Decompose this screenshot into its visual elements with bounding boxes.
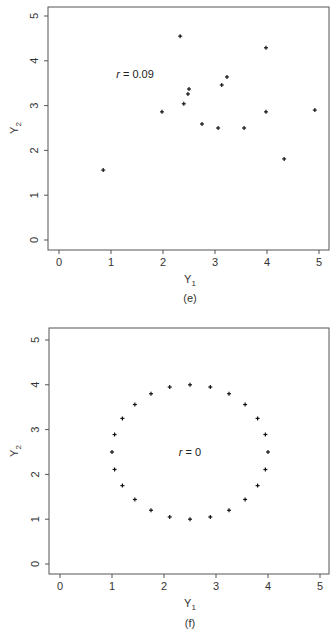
y-tick-label: 2 [28,147,40,153]
x-tick-label: 0 [56,256,62,268]
y-tick-label: 1 [28,192,40,198]
correlation-annotation: r = 0.09 [116,68,154,80]
correlation-annotation: r = 0 [179,446,201,458]
y-axis: 012345 [29,337,49,567]
x-tick-label: 3 [212,256,218,268]
x-tick-label: 4 [264,256,270,268]
plot-frame [48,7,329,250]
scatter-plot-e: 012345 012345 r = 0.09 Y1 Y2 (e) [0,0,336,319]
panel-caption: (f) [185,617,195,629]
y-tick-label: 0 [28,237,40,243]
y-axis-label: Y2 [8,445,23,457]
y-tick-label: 5 [28,13,40,19]
x-tick-label: 1 [109,580,115,592]
scatter-plot-f: 012345 012345 r = 0 Y1 Y2 (f) [0,319,336,638]
y-tick-label: 4 [29,382,41,388]
y-tick-label: 1 [29,516,41,522]
x-tick-label: 5 [316,256,322,268]
x-tick-label: 4 [265,580,271,592]
y-axis: 012345 [28,13,48,243]
y-tick-label: 0 [29,561,41,567]
x-axis: 012345 [57,574,323,592]
y-tick-label: 4 [28,58,40,64]
x-tick-label: 5 [317,580,323,592]
y-tick-label: 3 [29,427,41,433]
x-tick-label: 3 [213,580,219,592]
x-tick-label: 2 [160,256,166,268]
x-tick-label: 0 [57,580,63,592]
y-tick-label: 5 [29,337,41,343]
y-axis-label: Y2 [8,122,23,134]
panel-caption: (e) [183,292,196,304]
x-axis: 012345 [56,250,322,268]
y-tick-label: 3 [28,103,40,109]
x-axis-label: Y1 [184,597,196,612]
x-tick-label: 1 [108,256,114,268]
y-tick-label: 2 [29,471,41,477]
x-axis-label: Y1 [184,273,196,288]
x-tick-label: 2 [161,580,167,592]
